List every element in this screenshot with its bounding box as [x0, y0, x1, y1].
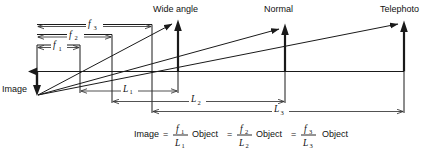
- equation-equals-3: =: [291, 129, 296, 139]
- dimension-L3: L 3: [153, 104, 403, 116]
- equation-den-1-sub: 1: [182, 142, 185, 149]
- dimension-f2: f 2: [38, 30, 111, 42]
- equation-num-2: f: [240, 124, 244, 134]
- label-normal: Normal: [264, 4, 293, 14]
- diagram-canvas: Wide angle Normal Telephoto Image f 3 f …: [0, 0, 429, 152]
- equation-object-2: Object: [256, 129, 283, 139]
- object-arrow-wide-angle: [174, 20, 182, 72]
- equation-num-3: f: [304, 124, 308, 134]
- image-arrow: [33, 72, 41, 97]
- equation-fraction-2: f 2 L 2: [237, 124, 252, 149]
- equation-den-3-sub: 3: [310, 142, 313, 149]
- equation-object-3: Object: [322, 129, 349, 139]
- equation-equals-1: =: [163, 129, 168, 139]
- dimension-label-L3: L: [273, 104, 279, 114]
- dimension-sub-f3: 3: [94, 24, 97, 31]
- label-wide-angle: Wide angle: [153, 4, 198, 14]
- equation-num-3-sub: 3: [309, 128, 312, 135]
- dimension-L2: L 2: [113, 94, 284, 106]
- equation-num-1-sub: 1: [181, 128, 184, 135]
- equation-num-2-sub: 2: [245, 128, 248, 135]
- equation-equals-2: =: [227, 129, 232, 139]
- dimension-label-L2: L: [190, 94, 196, 104]
- equation-den-1: L: [174, 138, 180, 148]
- dimension-sub-L2: 2: [198, 99, 201, 106]
- dimension-f1: f 1: [38, 40, 79, 52]
- label-telephoto: Telephoto: [380, 4, 419, 14]
- equation: Image = f 1 L 1 Object = f 2 L 2 Object …: [134, 124, 349, 149]
- equation-den-3: L: [302, 138, 308, 148]
- equation-fraction-3: f 3 L 3: [301, 124, 316, 149]
- equation-den-2-sub: 2: [246, 142, 249, 149]
- label-image: Image: [2, 84, 27, 94]
- dimension-sub-f1: 1: [59, 45, 62, 52]
- equation-num-1: f: [176, 124, 180, 134]
- dimension-label-L1: L: [122, 84, 128, 94]
- dimension-sub-f2: 2: [75, 34, 78, 41]
- dimension-L1: L 1: [81, 84, 177, 96]
- equation-image-word: Image: [134, 129, 159, 139]
- optics-diagram: Wide angle Normal Telephoto Image f 3 f …: [0, 0, 429, 152]
- equation-fraction-1: f 1 L 1: [173, 124, 188, 149]
- equation-den-2: L: [238, 138, 244, 148]
- dimension-sub-L3: 3: [281, 109, 284, 116]
- object-arrow-telephoto: [400, 21, 408, 72]
- equation-object-1: Object: [192, 129, 219, 139]
- dimension-sub-L1: 1: [130, 88, 133, 95]
- object-arrow-normal: [281, 24, 289, 72]
